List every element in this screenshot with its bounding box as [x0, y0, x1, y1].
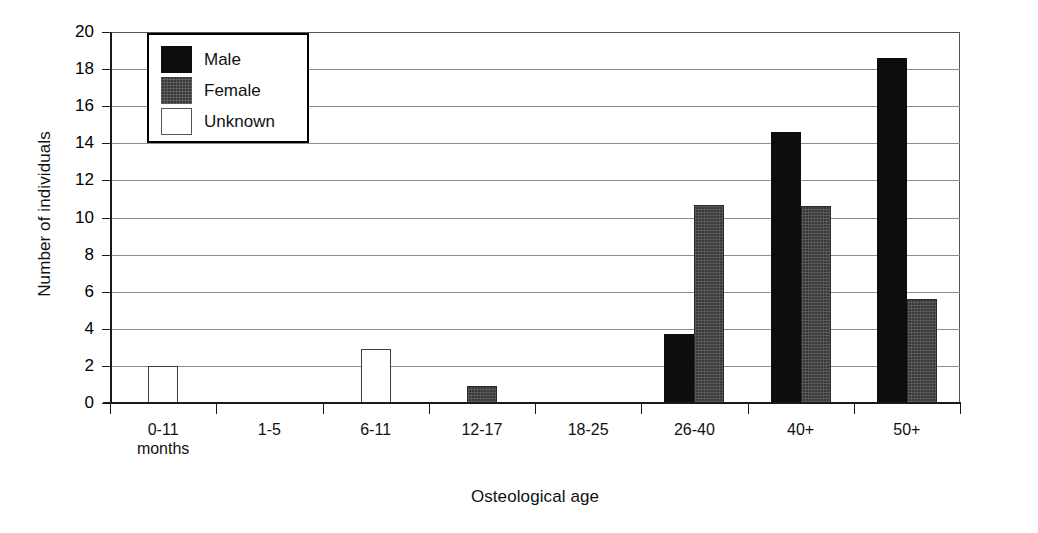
gridline — [110, 218, 960, 219]
bar-male — [664, 334, 694, 403]
bar-female — [801, 206, 831, 403]
bar-male — [771, 132, 801, 403]
y-axis-tick — [102, 292, 111, 293]
bar-male — [877, 58, 907, 403]
y-axis-tick — [102, 329, 111, 330]
x-axis-tick — [323, 404, 324, 414]
x-axis-category-label: 50+ — [854, 420, 960, 439]
x-axis-category-label: 40+ — [748, 420, 854, 439]
y-axis-tick-label: 14 — [28, 143, 94, 144]
gridline — [110, 329, 960, 330]
bar-female — [694, 205, 724, 403]
y-axis-tick-label: 12 — [28, 180, 94, 181]
x-axis-line — [103, 402, 961, 404]
bar-chart: Number of individuals 02468101214161820 … — [0, 0, 1038, 533]
x-axis-category-label: 6-11 — [323, 420, 429, 439]
y-axis-tick — [102, 366, 111, 367]
x-axis-tick — [110, 404, 111, 414]
y-axis-tick-label: 10 — [28, 218, 94, 219]
y-axis-tick-label: 20 — [28, 32, 94, 33]
male-swatch-icon — [161, 46, 192, 73]
gridline — [110, 366, 960, 367]
y-axis-tick-label: 6 — [28, 292, 94, 293]
y-axis-tick — [102, 143, 111, 144]
bar-unknown — [361, 349, 391, 403]
y-axis-title: Number of individuals — [35, 74, 55, 354]
bar-female — [467, 386, 497, 403]
bar-unknown — [148, 366, 178, 403]
bar-female — [907, 299, 937, 403]
y-axis-tick-label: 0 — [28, 403, 94, 404]
y-axis-tick — [102, 180, 111, 181]
legend-label-unknown: Unknown — [204, 112, 275, 132]
legend: Male Female Unknown — [147, 33, 309, 143]
x-axis-tick — [960, 404, 961, 414]
x-axis-tick — [535, 404, 536, 414]
gridline — [110, 255, 960, 256]
legend-item-male: Male — [161, 44, 307, 75]
unknown-swatch-icon — [161, 108, 192, 135]
x-axis-tick — [429, 404, 430, 414]
legend-label-female: Female — [204, 81, 261, 101]
y-axis-tick-label: 2 — [28, 366, 94, 367]
y-axis-tick-label: 16 — [28, 106, 94, 107]
legend-item-unknown: Unknown — [161, 106, 307, 137]
x-axis-title: Osteological age — [110, 487, 960, 507]
x-axis-tick — [854, 404, 855, 414]
gridline — [110, 292, 960, 293]
y-axis-tick — [102, 218, 111, 219]
x-axis-tick — [641, 404, 642, 414]
y-axis-tick-label: 18 — [28, 69, 94, 70]
y-axis-tick-label: 4 — [28, 329, 94, 330]
x-axis-tick — [748, 404, 749, 414]
gridline — [110, 143, 960, 144]
y-axis-tick — [102, 255, 111, 256]
legend-label-male: Male — [204, 50, 241, 70]
y-axis-tick — [102, 32, 111, 33]
female-swatch-icon — [161, 77, 192, 104]
x-axis-category-label: 1-5 — [216, 420, 322, 439]
x-axis-tick — [216, 404, 217, 414]
y-axis-tick — [102, 106, 111, 107]
y-axis-tick-label: 8 — [28, 255, 94, 256]
x-axis-category-label: 0-11months — [110, 420, 216, 458]
x-axis-category-label: 18-25 — [535, 420, 641, 439]
x-axis-category-label: 12-17 — [429, 420, 535, 439]
x-axis-category-label: 26-40 — [641, 420, 747, 439]
gridline — [110, 180, 960, 181]
y-axis-tick — [102, 69, 111, 70]
legend-item-female: Female — [161, 75, 307, 106]
